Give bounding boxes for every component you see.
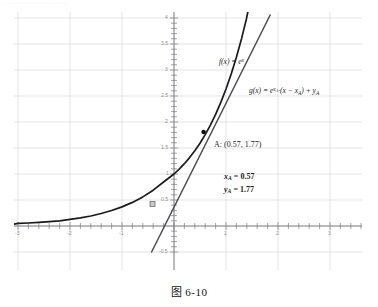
x-tick-label-1: 1: [224, 230, 227, 236]
xa-value-label: xA = 0.57: [224, 172, 254, 181]
function-label-g: g(x) = exA·(x − xA) + yA: [249, 86, 319, 96]
function-label-f-exponent: x: [242, 57, 244, 63]
cartesian-plot: -3 -2 -1 1 2 3 4 3.5 3 2.5 2 1.5 1 0.5 -…: [14, 12, 362, 270]
y-tick-label-4: 4: [165, 14, 168, 20]
function-label-f: f(x) = ex: [219, 57, 244, 66]
function-label-g-prefix: g(x) = e: [249, 86, 273, 95]
y-tick-label-3: 3: [165, 66, 168, 72]
function-label-g-sub2: A: [316, 90, 319, 96]
page-top-text-remnant: ···················: [4, 0, 194, 9]
point-a-marker: [201, 130, 206, 135]
y-tick-label-2p5: 2.5: [161, 92, 168, 98]
figure-container: ···················: [0, 0, 378, 307]
y-tick-label--0p5: -0.5: [159, 248, 168, 254]
function-label-g-mid: ·(x − x: [278, 86, 298, 95]
x-tick-label--1: -1: [119, 230, 123, 236]
x-intercept-marker: [150, 202, 155, 207]
figure-caption: 图 6-10: [0, 283, 378, 299]
x-tick-label-2: 2: [276, 230, 279, 236]
x-tick-label--2: -2: [67, 230, 71, 236]
function-label-g-tail: ) + y: [301, 86, 316, 95]
y-tick-label-3p5: 3.5: [161, 40, 168, 46]
function-label-f-text: f(x) = e: [219, 57, 242, 66]
xa-equals-value: = 0.57: [232, 172, 255, 181]
tangent-line-g: [152, 15, 271, 252]
point-a-label-text: A: (0.57, 1.77): [214, 140, 261, 149]
y-tick-label-1: 1: [166, 170, 169, 176]
y-tick-label-1p5: 1.5: [161, 144, 168, 150]
x-tick-label--3: -3: [15, 230, 19, 236]
ya-value-label: yA = 1.77: [224, 185, 254, 194]
x-tick-label-3: 3: [328, 230, 331, 236]
ya-equals-value: = 1.77: [231, 185, 254, 194]
y-tick-label-2: 2: [165, 118, 168, 124]
point-a-label: A: (0.57, 1.77): [214, 140, 261, 149]
y-tick-label-0p5: 0.5: [161, 196, 168, 202]
